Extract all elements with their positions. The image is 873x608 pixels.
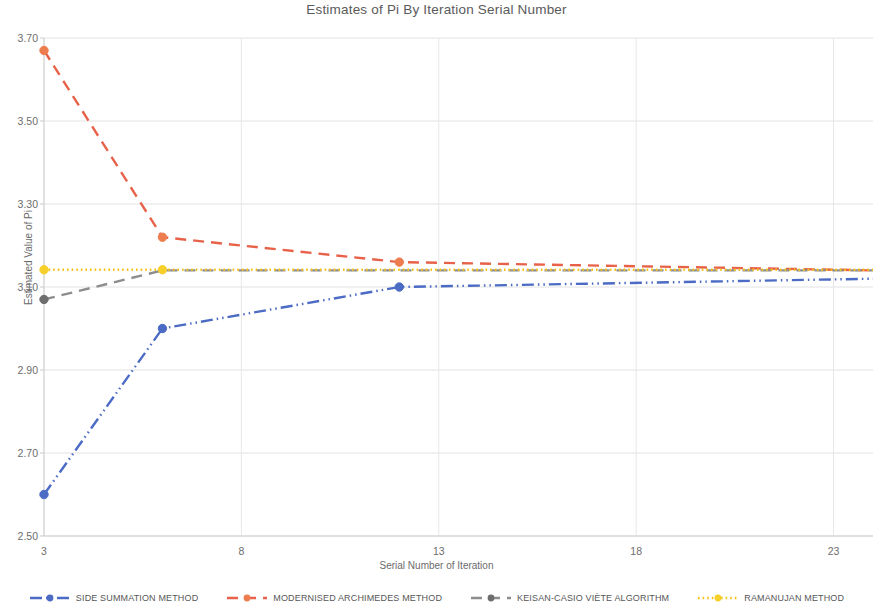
plot-area [0,0,873,608]
legend-swatch-icon [226,592,268,604]
legend-label: SIDE SUMMATION METHOD [76,593,198,603]
legend-marker [715,595,722,602]
legend-label: RAMANUJAN METHOD [744,593,844,603]
series-line [44,270,873,299]
series-marker [158,233,166,241]
legend-label: KEISAN-CASIO VIÈTE ALGORITHM [517,593,669,603]
series-marker [40,295,48,303]
series-marker [40,490,48,498]
series-1 [40,46,873,270]
series-marker [158,324,166,332]
legend-label: MODERNISED ARCHIMEDES METHOD [273,593,442,603]
series-marker [395,283,403,291]
series-marker [40,266,48,274]
legend-item[interactable]: SIDE SUMMATION METHOD [29,592,198,604]
legend-marker [488,595,495,602]
chart-legend: SIDE SUMMATION METHODMODERNISED ARCHIMED… [0,588,873,608]
series-marker [395,258,403,266]
legend-swatch-icon [470,592,512,604]
legend-marker [46,595,53,602]
series-line [44,279,873,495]
legend-item[interactable]: RAMANUJAN METHOD [697,592,844,604]
legend-marker [244,595,251,602]
series-line [44,50,873,270]
chart-container: Estimates of Pi By Iteration Serial Numb… [0,0,873,608]
series-0 [40,279,873,499]
legend-swatch-icon [29,592,71,604]
series-marker [40,46,48,54]
legend-item[interactable]: KEISAN-CASIO VIÈTE ALGORITHM [470,592,669,604]
series-marker [158,266,166,274]
legend-swatch-icon [697,592,739,604]
legend-item[interactable]: MODERNISED ARCHIMEDES METHOD [226,592,442,604]
